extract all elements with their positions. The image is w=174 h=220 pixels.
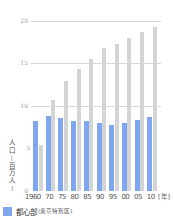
xtick-label: 75 (58, 193, 66, 201)
ytick-10: 10 (14, 103, 28, 109)
bar-urban-core (46, 116, 51, 191)
bar-urban-core (84, 121, 89, 191)
gridline-20 (31, 21, 161, 22)
bar-chart: 20 15 10 5 0 人 口 [ 百 万 人 ] 1960707580859… (0, 0, 174, 220)
bar-suburban (127, 38, 131, 191)
bar-urban-core (58, 118, 63, 191)
bar-suburban (115, 44, 119, 191)
xtick-label: 80 (71, 193, 79, 201)
bar-urban-core (71, 121, 76, 191)
xtick-label: 05 (134, 193, 142, 201)
bar-suburban (39, 145, 43, 191)
y-axis-label: 人 口 [ 百 万 人 ] (7, 140, 17, 193)
ytick-15: 15 (14, 60, 28, 66)
bar-suburban (64, 81, 68, 192)
legend-label: 都心部 (16, 206, 37, 217)
ytick-5: 5 (20, 145, 30, 151)
bar-suburban (51, 100, 55, 191)
xtick-label: 70 (45, 193, 53, 201)
legend-sublabel: (東京特別区) (38, 207, 72, 215)
bar-suburban (153, 27, 157, 191)
ylabel-char: 人 (7, 178, 17, 186)
bar-suburban (102, 48, 106, 191)
bar-suburban (140, 32, 144, 191)
legend: 都心部 (東京特別区) (3, 206, 72, 216)
bar-urban-core (147, 117, 152, 191)
ylabel-char: 口 (7, 148, 17, 156)
bar-urban-core (33, 121, 38, 191)
bar-urban-core (122, 123, 127, 191)
legend-swatch-blue (3, 207, 12, 216)
ylabel-char: ] (7, 185, 17, 193)
bar-urban-core (109, 125, 114, 191)
xtick-label: 85 (83, 193, 91, 201)
bar-urban-core (135, 120, 140, 191)
xtick-label: 95 (109, 193, 117, 201)
bar-suburban (77, 69, 81, 191)
xtick-label: 1960 (25, 193, 41, 201)
ytick-20: 20 (14, 18, 28, 24)
bar-suburban (89, 59, 93, 191)
xtick-label: 10 (147, 193, 155, 201)
x-axis-unit: [年] (158, 193, 170, 201)
bar-urban-core (97, 123, 102, 191)
xtick-label: 00 (121, 193, 129, 201)
xtick-label: 90 (96, 193, 104, 201)
